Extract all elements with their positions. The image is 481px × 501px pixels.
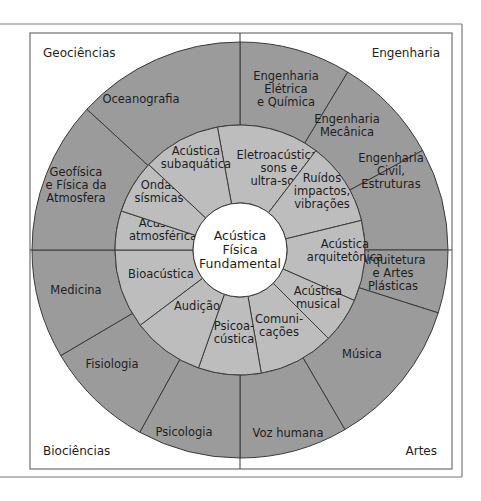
label-line: impactos,: [294, 184, 350, 198]
acoustics-wheel-diagram: EngenhariaElétricae QuímicaEngenhariaMec…: [0, 0, 481, 501]
label-line: Audição: [174, 299, 220, 313]
middle-ring-label: Audição: [174, 299, 220, 313]
outer-ring-label: Psicologia: [155, 425, 212, 439]
label-line: Oceanografia: [102, 92, 179, 106]
label-line: cações: [259, 325, 299, 339]
rings: EngenhariaElétricae QuímicaEngenhariaMec…: [32, 42, 448, 458]
corner-label-biociencias: Biociências: [43, 444, 110, 458]
corner-label-geociencias: Geociências: [43, 46, 115, 60]
label-line: cústica: [214, 332, 255, 346]
label-line: Civil,: [377, 164, 405, 178]
label-line: Comuni-: [255, 312, 303, 326]
label-line: Psicoa-: [214, 319, 254, 333]
outer-ring-label: Música: [342, 347, 382, 361]
label-line: Psicologia: [155, 425, 212, 439]
label-line: arquitetônica: [307, 250, 383, 264]
middle-ring-label: Psicoa-cústica: [214, 319, 255, 346]
outer-ring-label: Medicina: [50, 283, 101, 297]
label-line: Bioacústica: [128, 267, 194, 281]
label-line: e Química: [257, 95, 315, 109]
label-line: Estruturas: [361, 177, 420, 191]
label-line: Engenharia: [358, 151, 424, 165]
outer-ring-label: Oceanografia: [102, 92, 179, 106]
label-line: Engenharia: [253, 69, 319, 83]
label-line: Música: [342, 347, 382, 361]
outer-ring-label: Voz humana: [253, 426, 324, 440]
label-line: Elétrica: [264, 82, 307, 96]
label-line: Fisiologia: [86, 357, 139, 371]
corner-label-artes: Artes: [406, 444, 437, 458]
outer-ring-label: EngenhariaMecânica: [314, 112, 380, 139]
label-line: e Artes: [373, 266, 414, 280]
label-line: Geofísica: [50, 165, 103, 179]
label-line: musical: [296, 297, 340, 311]
label-line: Física: [222, 242, 257, 257]
outer-ring-label: Geofísicae Física daAtmosfera: [45, 165, 106, 205]
label-line: Plásticas: [368, 279, 418, 293]
label-line: Acústica: [172, 144, 220, 158]
middle-ring-label: Acústicamusical: [294, 284, 342, 311]
middle-ring-label: Bioacústica: [128, 267, 194, 281]
label-line: Medicina: [50, 283, 101, 297]
center-node: AcústicaFísicaFundamental: [193, 203, 287, 297]
label-line: Ruídos: [303, 171, 341, 185]
label-line: Acústica: [294, 284, 342, 298]
label-line: e Física da: [45, 178, 106, 192]
label-line: sísmicas: [135, 191, 184, 205]
label-line: subaquática: [161, 157, 231, 171]
label-line: Voz humana: [253, 426, 324, 440]
label-line: Acústica: [321, 237, 369, 251]
label-line: Mecânica: [320, 125, 374, 139]
middle-ring-label: Comuni-cações: [255, 312, 303, 339]
label-line: Fundamental: [199, 256, 281, 271]
label-line: sons e: [260, 161, 297, 175]
label-line: vibrações: [294, 197, 350, 211]
label-line: Engenharia: [314, 112, 380, 126]
corner-label-engenharia: Engenharia: [372, 46, 440, 60]
label-line: Acústica: [214, 228, 267, 243]
label-line: Atmosfera: [46, 191, 105, 205]
outer-ring-label: Fisiologia: [86, 357, 139, 371]
